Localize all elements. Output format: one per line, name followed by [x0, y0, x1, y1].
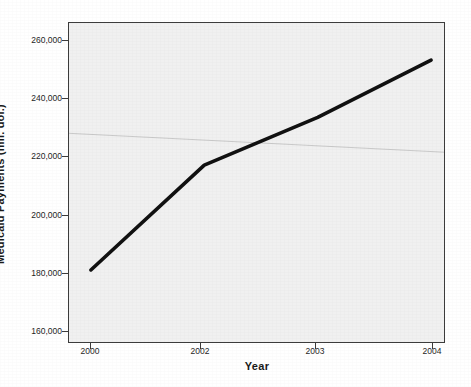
x-axis-ticks: 2000 2002 2003 2004	[0, 0, 471, 387]
x-tick-label: 2004	[407, 346, 457, 356]
x-tick-label: 2000	[65, 346, 115, 356]
x-axis-title: Year	[68, 360, 446, 372]
x-tick-label: 2003	[290, 346, 340, 356]
line-chart-figure: Medicaid Payments (mil. dol.) 260,000 24…	[0, 0, 471, 387]
x-tick-label: 2002	[175, 346, 225, 356]
